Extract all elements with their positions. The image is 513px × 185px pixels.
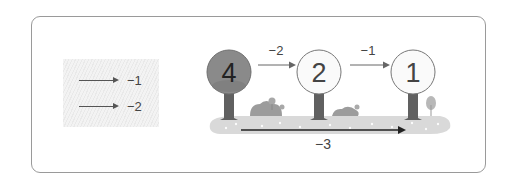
tree-node-2: 2 bbox=[297, 50, 341, 94]
total-arrow: −3 bbox=[241, 126, 406, 152]
tree-node-1: 1 bbox=[391, 50, 435, 94]
bush bbox=[332, 107, 359, 116]
bush bbox=[250, 101, 282, 116]
tree-scene: 4 2 1 −2 −1 −3 bbox=[0, 0, 513, 185]
step-arrow-2-to-1: −1 bbox=[350, 43, 390, 69]
svg-text:4: 4 bbox=[221, 58, 236, 88]
step-arrow-4-to-2: −2 bbox=[258, 43, 296, 69]
tree-node-4: 4 bbox=[207, 50, 251, 94]
svg-text:1: 1 bbox=[405, 58, 420, 88]
svg-text:2: 2 bbox=[311, 58, 326, 88]
svg-text:−3: −3 bbox=[315, 136, 331, 152]
svg-text:−1: −1 bbox=[361, 43, 376, 58]
svg-text:−2: −2 bbox=[269, 43, 284, 58]
